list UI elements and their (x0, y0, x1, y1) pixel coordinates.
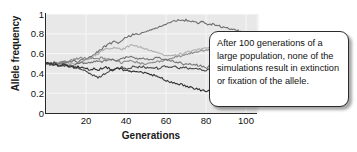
x-axis-line (45, 113, 257, 114)
chart-figure: Allele frequency 00.20.40.60.81 20406080… (0, 0, 357, 152)
y-axis-tick-label: 0.4 (18, 69, 44, 78)
y-axis-tick-label: 0.6 (18, 49, 44, 58)
y-axis-tick-label: 1 (18, 10, 44, 19)
x-axis-tick-label: 100 (231, 115, 261, 126)
x-axis-label: Generations (46, 130, 256, 141)
annotation-callout: After 100 generations of a large populat… (209, 31, 349, 107)
y-axis-tick-label: 0.2 (18, 89, 44, 98)
x-axis-tick-label: 40 (111, 115, 141, 126)
y-axis-tick-group: 00.20.40.60.81 (17, 0, 44, 152)
y-axis-line (45, 13, 46, 114)
y-axis-tick-label: 0 (18, 109, 44, 118)
y-axis-tick-label: 0.8 (18, 29, 44, 38)
x-axis-tick-label: 60 (151, 115, 181, 126)
annotation-text: After 100 generations of a large populat… (217, 37, 342, 87)
x-axis-tick-label: 20 (71, 115, 101, 126)
x-axis-tick-label: 80 (191, 115, 221, 126)
